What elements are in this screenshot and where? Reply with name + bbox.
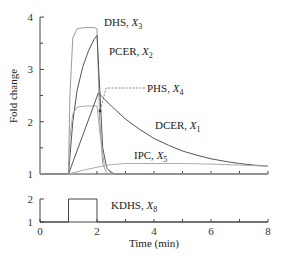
- x-tick-label: 8: [265, 225, 271, 237]
- label-pcer: PCER, X2: [109, 45, 153, 60]
- x-tick-label: 6: [208, 225, 214, 237]
- phs-arrow-head: [99, 110, 102, 113]
- y-tick-label: 2: [28, 193, 34, 205]
- label-ipc: IPC, X5: [134, 149, 167, 164]
- curve-dcer: [40, 93, 268, 174]
- y-tick-label: 4: [28, 11, 34, 23]
- x-tick-label: 4: [151, 225, 157, 237]
- label-dhs: DHS, X3: [104, 16, 142, 31]
- label-kdhs: KDHS, X8: [111, 199, 157, 214]
- bottom-y-ticks: 12: [28, 193, 45, 228]
- y-tick-label: 3: [28, 63, 34, 75]
- x-tick-label: 2: [94, 225, 100, 237]
- fold-change-chart: 1234 DHS, X3 PCER, X2 PHS, X4 DCER, X1 I…: [0, 0, 282, 260]
- x-tick-label: 0: [37, 225, 43, 237]
- y-tick-label: 1: [28, 168, 34, 180]
- x-axis-title: Time (min): [129, 237, 179, 250]
- y-tick-label: 2: [28, 116, 34, 128]
- phs-arrow: [101, 88, 145, 108]
- label-dcer: DCER, X1: [155, 119, 201, 134]
- top-y-ticks: 1234: [28, 11, 45, 180]
- label-phs: PHS, X4: [147, 82, 183, 97]
- y-axis-title: Fold change: [7, 69, 19, 123]
- y-tick-label: 1: [28, 216, 34, 228]
